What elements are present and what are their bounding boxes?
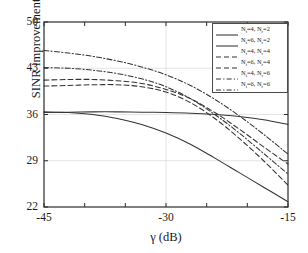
legend-line-sample (215, 81, 239, 91)
chart-figure: SINR improvement (dB) γ (dB) 2229364350 … (0, 0, 308, 253)
legend-item-label: Nt=6, Nr=6 (241, 79, 270, 92)
x-tick-label: -45 (24, 211, 64, 223)
y-tick-label: 36 (12, 108, 38, 120)
legend: Nt=4, Nr=2Nt=6, Nr=2Nt=4, Nr=4Nt=6, Nr=4… (212, 23, 288, 93)
x-tick-label: -15 (268, 211, 308, 223)
y-tick-label: 29 (12, 154, 38, 166)
y-tick-label: 43 (12, 61, 38, 73)
legend-line-sample (215, 37, 239, 47)
legend-item[interactable]: Nt=6, Nr=6 (215, 80, 285, 91)
legend-line-sample (215, 26, 239, 36)
legend-line-sample (215, 48, 239, 58)
x-tick-label: -30 (146, 211, 186, 223)
legend-line-sample (215, 59, 239, 69)
legend-line-sample (215, 70, 239, 80)
y-tick-label: 50 (12, 15, 38, 27)
